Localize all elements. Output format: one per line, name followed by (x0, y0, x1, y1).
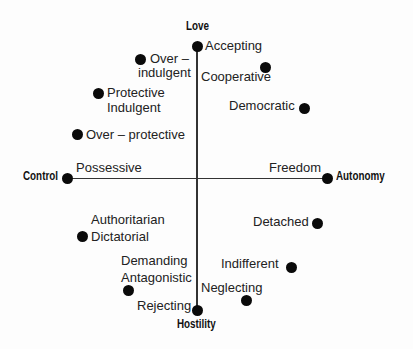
label-rejecting: Rejecting (137, 298, 191, 313)
label-authoritarian: Authoritarian (91, 212, 165, 227)
label-dictatorial: Dictatorial (91, 229, 149, 244)
pole-label-hostility: Hostility (177, 317, 216, 331)
point-rejecting (192, 305, 203, 316)
label-over-indulgent-1: Over – (150, 51, 189, 66)
label-democratic: Democratic (229, 98, 295, 113)
label-over-indulgent-2: indulgent (138, 65, 191, 80)
label-freedom: Freedom (269, 160, 321, 175)
horizontal-axis-control-autonomy (67, 178, 327, 180)
pole-label-autonomy: Autonomy (336, 169, 385, 183)
pole-label-love: Love (186, 19, 209, 33)
label-antagonistic: Antagonistic (121, 270, 192, 285)
point-neglecting (241, 295, 252, 306)
pole-label-control: Control (23, 169, 58, 183)
point-accepting (192, 41, 203, 52)
point-dictatorial (77, 231, 88, 242)
label-demanding: Demanding (121, 253, 188, 268)
point-detached (312, 218, 323, 229)
label-accepting: Accepting (205, 38, 262, 53)
point-protective-indulgent (93, 88, 104, 99)
label-indifferent: Indifferent (221, 256, 279, 271)
label-neglecting: Neglecting (201, 280, 262, 295)
point-demanding-antagonistic (123, 285, 134, 296)
point-democratic (299, 103, 310, 114)
label-possessive: Possessive (76, 160, 142, 175)
label-detached: Detached (253, 214, 309, 229)
label-protective: Protective (107, 85, 165, 100)
point-over-indulgent (135, 54, 146, 65)
point-over-protective (72, 129, 83, 140)
point-indifferent (286, 262, 297, 273)
label-indulgent: Indulgent (107, 100, 161, 115)
point-autonomy (322, 173, 333, 184)
label-cooperative: Cooperative (201, 69, 271, 84)
point-control (62, 173, 73, 184)
label-over-protective: Over – protective (86, 127, 185, 142)
